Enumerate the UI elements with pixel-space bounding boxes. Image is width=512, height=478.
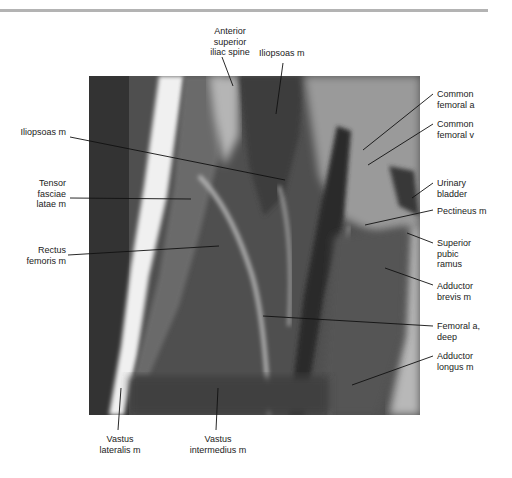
label-line: longus m: [437, 362, 474, 373]
label-iliopsoas-left: Iliopsoas m: [0, 127, 66, 138]
label-line: Tensor: [0, 178, 66, 189]
label-common-femoral-artery: Common femoral a: [437, 89, 475, 110]
label-line: brevis m: [437, 292, 473, 303]
label-line: pubic: [437, 249, 471, 260]
label-line: ramus: [437, 259, 471, 270]
label-deep-femoral-artery: Femoral a, deep: [437, 321, 480, 342]
label-adductor-longus: Adductor longus m: [437, 351, 474, 372]
label-line: Superior: [437, 238, 471, 249]
label-line: Anterior: [200, 26, 260, 37]
leader-lines: [0, 0, 512, 478]
label-line: intermedius m: [180, 445, 256, 456]
label-pectineus: Pectineus m: [437, 206, 487, 217]
label-tensor-fasciae-latae: Tensor fasciae latae m: [0, 178, 66, 210]
label-line: fasciae: [0, 189, 66, 200]
label-line: Rectus: [0, 245, 66, 256]
label-line: femoral a: [437, 100, 475, 111]
label-adductor-brevis: Adductor brevis m: [437, 281, 473, 302]
label-line: lateralis m: [90, 445, 150, 456]
label-line: bladder: [437, 189, 467, 200]
label-common-femoral-vein: Common femoral v: [437, 119, 474, 140]
label-line: Common: [437, 119, 474, 130]
label-vastus-intermedius: Vastus intermedius m: [180, 434, 256, 455]
label-urinary-bladder: Urinary bladder: [437, 178, 467, 199]
label-superior-pubic-ramus: Superior pubic ramus: [437, 238, 471, 270]
label-line: latae m: [0, 199, 66, 210]
label-line: femoral v: [437, 130, 474, 141]
label-iliopsoas-top: Iliopsoas m: [259, 48, 305, 59]
label-line: Femoral a,: [437, 321, 480, 332]
label-line: Vastus: [180, 434, 256, 445]
label-rectus-femoris: Rectus femoris m: [0, 245, 66, 266]
label-line: Vastus: [90, 434, 150, 445]
label-line: deep: [437, 332, 480, 343]
label-line: superior: [200, 37, 260, 48]
label-asis: Anterior superior iliac spine: [200, 26, 260, 58]
label-line: Urinary: [437, 178, 467, 189]
label-line: Adductor: [437, 281, 473, 292]
label-line: Adductor: [437, 351, 474, 362]
label-line: femoris m: [0, 256, 66, 267]
label-vastus-lateralis: Vastus lateralis m: [90, 434, 150, 455]
label-line: iliac spine: [200, 47, 260, 58]
label-line: Common: [437, 89, 475, 100]
